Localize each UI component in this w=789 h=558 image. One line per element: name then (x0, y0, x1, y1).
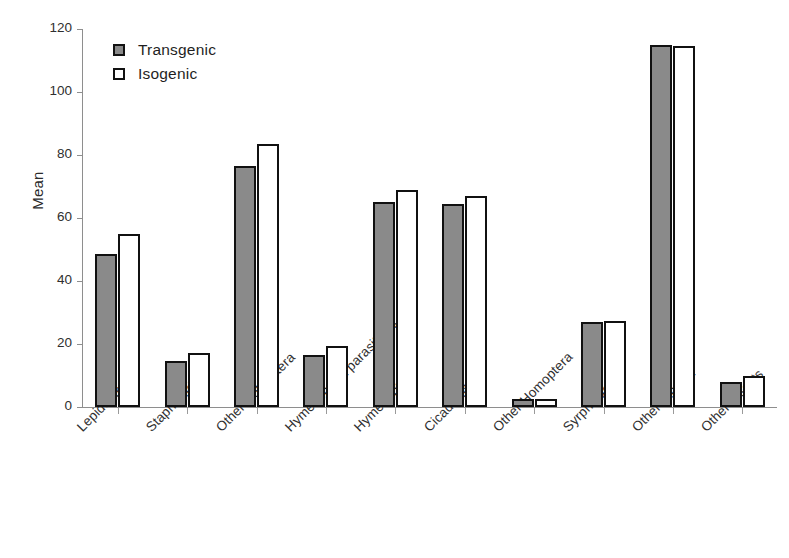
y-axis-tick-label: 0 (64, 398, 72, 413)
bar-transgenic (165, 361, 187, 407)
bar-group (234, 29, 279, 407)
bar-isogenic (465, 196, 487, 407)
bar-transgenic (95, 254, 117, 407)
bar-group (373, 29, 418, 407)
chart-legend: Transgenic Isogenic (113, 38, 216, 86)
y-axis-tick-label: 20 (57, 335, 72, 350)
bar-group (720, 29, 765, 407)
filled-gray-square-icon (113, 44, 125, 56)
y-axis-tick-label: 40 (57, 272, 72, 287)
x-axis-tick-mark (604, 408, 605, 414)
bar-transgenic (234, 166, 256, 407)
y-axis-tick-label: 120 (49, 20, 72, 35)
bar-isogenic (535, 399, 557, 407)
bar-isogenic (257, 144, 279, 407)
bar-group (512, 29, 557, 407)
legend-item-transgenic: Transgenic (113, 38, 216, 62)
bar-transgenic (512, 399, 534, 407)
x-axis-tick-mark (395, 408, 396, 414)
bar-group (303, 29, 348, 407)
legend-item-isogenic: Isogenic (113, 62, 216, 86)
legend-label-transgenic: Transgenic (138, 41, 216, 59)
bar-transgenic (303, 355, 325, 407)
x-axis-tick-mark (257, 408, 258, 414)
x-axis-tick-mark (187, 408, 188, 414)
bar-transgenic (581, 322, 603, 407)
y-axis-tick-label: 100 (49, 83, 72, 98)
bar-transgenic (442, 204, 464, 407)
bar-chart: Mean 020406080100120 LepidopteraStaphili… (0, 0, 789, 558)
bar-isogenic (326, 346, 348, 407)
bar-isogenic (604, 321, 626, 407)
bar-transgenic (650, 45, 672, 407)
bar-transgenic (373, 202, 395, 407)
y-axis-tick-label: 60 (57, 209, 72, 224)
bar-group (581, 29, 626, 407)
x-axis-tick-mark (326, 408, 327, 414)
bar-isogenic (396, 190, 418, 407)
bar-isogenic (118, 234, 140, 407)
y-axis-title: Mean (29, 151, 46, 231)
bar-isogenic (743, 376, 765, 408)
x-axis-tick-mark (673, 408, 674, 414)
x-axis-tick-mark (742, 408, 743, 414)
y-axis-tick-label: 80 (57, 146, 72, 161)
legend-label-isogenic: Isogenic (138, 65, 197, 83)
x-axis-tick-mark (465, 408, 466, 414)
bar-group (442, 29, 487, 407)
bar-isogenic (673, 46, 695, 407)
x-axis-tick-mark (118, 408, 119, 414)
bar-isogenic (188, 353, 210, 407)
x-axis-tick-mark (534, 408, 535, 414)
bar-group (650, 29, 695, 407)
y-axis-tick-mark (77, 407, 83, 408)
open-white-square-icon (113, 68, 125, 80)
bar-transgenic (720, 382, 742, 407)
